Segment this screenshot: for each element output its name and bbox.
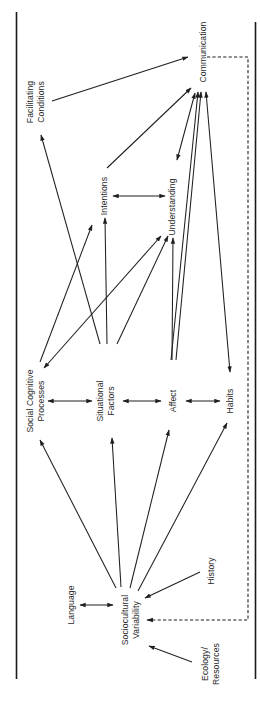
edge-situational-to-facilitating	[41, 135, 100, 344]
node-habits: Habits	[225, 389, 235, 414]
edge-sociocultural-to-situational	[112, 438, 121, 587]
edge-situational-to-understanding	[117, 236, 168, 344]
edge-sociocultural-to-social-cognitive	[40, 440, 116, 588]
node-language-label: Language	[66, 585, 76, 624]
node-facilitating-conditions-label-line1: Facilitating	[25, 81, 35, 123]
edge-affect-to-communication-b	[176, 92, 201, 360]
node-sociocultural-variability-label-line1: Sociocultural	[120, 595, 130, 646]
edge-situational-to-intentions	[105, 218, 107, 344]
communication-model-diagram: Communication Facilitating Conditions In…	[0, 0, 260, 711]
edge-facilitating-to-communication	[52, 57, 188, 101]
node-situational-factors: Situational Factors	[95, 380, 116, 421]
edge-ecology-to-sociocultural	[149, 646, 192, 662]
node-communication-label: Communication	[198, 21, 208, 82]
node-situational-factors-label-line1: Situational	[95, 380, 105, 421]
node-situational-factors-label-line2: Factors	[106, 386, 116, 415]
node-history: History	[206, 557, 216, 585]
node-sociocultural-variability: Sociocultural Variability	[120, 595, 141, 646]
node-intentions: Intentions	[99, 177, 109, 215]
node-intentions-label: Intentions	[99, 177, 109, 215]
edge-social-cognitive-to-intentions	[40, 225, 92, 362]
node-facilitating-conditions-label-line2: Conditions	[36, 81, 46, 123]
node-social-cognitive-processes-label-line1: Social Cognitive	[25, 369, 35, 432]
node-habits-label: Habits	[225, 389, 235, 414]
node-communication: Communication	[198, 21, 208, 82]
node-social-cognitive-processes-label-line2: Processes	[36, 380, 46, 421]
node-understanding: Understanding	[167, 178, 177, 235]
edge-social-cognitive-understanding	[44, 236, 161, 368]
node-history-label: History	[206, 557, 216, 585]
node-affect-label: Affect	[168, 389, 178, 412]
node-ecology-resources: Ecology/ Resources	[200, 643, 221, 685]
edge-history-to-sociocultural	[145, 572, 200, 598]
edge-sociocultural-to-affect	[130, 430, 169, 588]
node-ecology-resources-label-line1: Ecology/	[200, 647, 210, 681]
node-understanding-label: Understanding	[167, 178, 177, 235]
node-facilitating-conditions: Facilitating Conditions	[25, 81, 46, 123]
edge-communication-feedback-to-sociocultural	[147, 57, 248, 620]
node-affect: Affect	[168, 389, 178, 412]
node-ecology-resources-label-line2: Resources	[211, 643, 221, 685]
node-sociocultural-variability-label-line2: Variability	[131, 601, 141, 639]
node-language: Language	[66, 585, 76, 624]
edge-habits-communication	[206, 92, 230, 372]
node-social-cognitive-processes: Social Cognitive Processes	[25, 369, 46, 432]
